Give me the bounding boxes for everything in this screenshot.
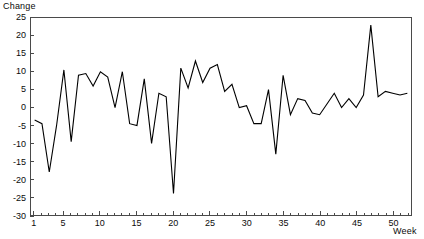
x-tick-label: 5 — [61, 218, 66, 228]
y-tick-label: -30 — [13, 211, 26, 221]
x-tick-label: 50 — [389, 218, 399, 228]
x-tick-label: 15 — [132, 218, 142, 228]
y-tick-label: -20 — [13, 175, 26, 185]
x-tick-label: 25 — [205, 218, 215, 228]
y-tick-label: -10 — [13, 139, 26, 149]
y-axis-tick-labels: 2520151050-5-10-15-20-25-30 — [0, 0, 26, 239]
x-tick-label: 10 — [95, 218, 105, 228]
y-tick-label: 25 — [16, 12, 26, 22]
y-tick-label: 10 — [16, 66, 26, 76]
x-tick-label: 1 — [31, 218, 36, 228]
plot-area — [30, 17, 412, 216]
y-tick-label: 5 — [21, 84, 26, 94]
data-line — [35, 25, 408, 193]
y-tick-label: -25 — [13, 193, 26, 203]
series-line — [31, 18, 411, 215]
y-tick-label: -15 — [13, 157, 26, 167]
x-tick-label: 45 — [352, 218, 362, 228]
y-tick-label: -5 — [18, 121, 26, 131]
y-tick-label: 0 — [21, 102, 26, 112]
line-chart: Change Week 2520151050-5-10-15-20-25-30 … — [0, 0, 424, 239]
x-tick-label: 30 — [242, 218, 252, 228]
x-tick-label: 20 — [168, 218, 178, 228]
x-tick-label: 40 — [315, 218, 325, 228]
x-tick-label: 35 — [278, 218, 288, 228]
y-tick-label: 15 — [16, 48, 26, 58]
y-tick-label: 20 — [16, 30, 26, 40]
